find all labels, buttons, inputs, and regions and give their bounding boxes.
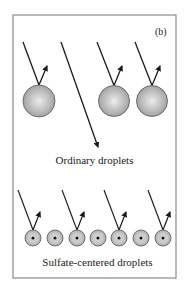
reflected-ray-arrow bbox=[152, 66, 160, 86]
sulfate-core-dot bbox=[96, 236, 99, 239]
incident-ray bbox=[62, 190, 77, 230]
transmitted-ray-arrow bbox=[61, 42, 98, 147]
sulfate-core-dot bbox=[75, 236, 78, 239]
reflected-ray-arrow bbox=[163, 212, 170, 230]
sulfate-core-dot bbox=[139, 236, 142, 239]
reflected-ray-arrow bbox=[77, 212, 84, 230]
incident-ray bbox=[97, 42, 114, 86]
sulfate-droplets-caption: Sulfate-centered droplets bbox=[42, 256, 152, 268]
incident-ray bbox=[18, 190, 33, 230]
sulfate-core-dot bbox=[161, 236, 164, 239]
diagram-canvas: (b) Ordinary droplets Sulfate-centered d… bbox=[0, 0, 184, 297]
sulfate-core-dot bbox=[31, 236, 34, 239]
reflected-ray-arrow bbox=[39, 66, 47, 85]
incident-ray bbox=[23, 42, 39, 85]
sulfate-core-dot bbox=[117, 236, 120, 239]
reflected-ray-arrow bbox=[33, 212, 40, 230]
panel-label: (b) bbox=[155, 26, 167, 38]
ordinary-droplet bbox=[99, 86, 130, 117]
sulfate-droplets-group bbox=[18, 190, 171, 246]
incident-ray bbox=[148, 190, 163, 230]
incident-ray bbox=[104, 190, 119, 230]
reflected-ray-arrow bbox=[119, 212, 126, 230]
ordinary-droplet bbox=[23, 85, 55, 117]
reflected-ray-arrow bbox=[114, 66, 122, 86]
incident-ray bbox=[135, 42, 152, 86]
sulfate-core-dot bbox=[53, 236, 56, 239]
ordinary-droplet bbox=[137, 86, 168, 117]
ordinary-droplets-group bbox=[23, 42, 168, 147]
ordinary-droplets-caption: Ordinary droplets bbox=[56, 154, 134, 166]
